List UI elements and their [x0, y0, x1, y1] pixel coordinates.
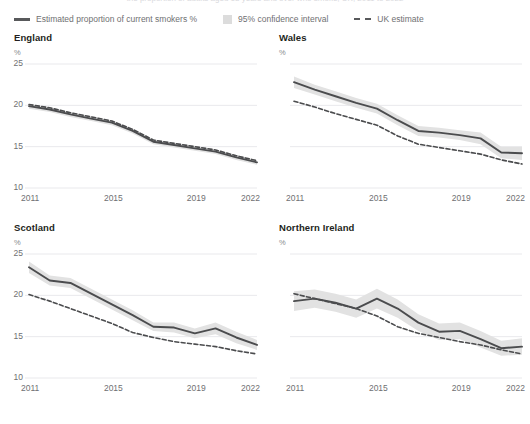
x-axis-tick-scotland-2022: 2022: [241, 383, 260, 393]
x-axis-tick-northern-ireland-2011: 2011: [286, 383, 304, 393]
x-axis-tick-england-2019: 2019: [187, 193, 206, 203]
plot-area-england: 101520252011201520192022: [0, 28, 265, 218]
chart-legend: Estimated proportion of current smokers …: [14, 14, 424, 24]
legend-item-estimate: Estimated proportion of current smokers …: [14, 14, 197, 24]
legend-label-uk-estimate: UK estimate: [377, 14, 423, 24]
y-axis-tick-england-25: 25: [7, 58, 23, 68]
y-axis-tick-scotland-15: 15: [7, 331, 23, 341]
y-axis-tick-england-15: 15: [7, 141, 23, 151]
y-axis-tick-england-20: 20: [7, 99, 23, 109]
legend-label-confidence-interval: 95% confidence interval: [238, 14, 328, 24]
legend-item-uk-estimate: UK estimate: [354, 14, 423, 24]
legend-item-confidence-interval: 95% confidence interval: [223, 14, 328, 24]
x-axis-tick-scotland-2011: 2011: [21, 383, 39, 393]
small-multiples-grid: England % 101520252011201520192022 Wales…: [0, 28, 530, 424]
plot-area-scotland: 101520252011201520192022: [0, 218, 265, 424]
legend-label-estimate: Estimated proportion of current smokers …: [36, 14, 197, 24]
solid-line-swatch-icon: [14, 18, 30, 21]
x-axis-tick-wales-2015: 2015: [369, 193, 388, 203]
x-axis-tick-england-2022: 2022: [241, 193, 260, 203]
plot-area-northern-ireland: 2011201520192022: [265, 218, 530, 424]
x-axis-tick-england-2015: 2015: [104, 193, 123, 203]
band-swatch-icon: [223, 15, 232, 24]
x-axis-tick-england-2011: 2011: [21, 193, 39, 203]
x-axis-tick-northern-ireland-2022: 2022: [506, 383, 525, 393]
y-axis-tick-scotland-25: 25: [7, 248, 23, 258]
x-axis-tick-wales-2022: 2022: [506, 193, 525, 203]
dashed-line-swatch-icon: [354, 18, 371, 20]
plot-area-wales: 2011201520192022: [265, 28, 530, 218]
y-axis-tick-scotland-20: 20: [7, 289, 23, 299]
chart-panel-northern-ireland: Northern Ireland % 2011201520192022: [265, 218, 530, 424]
x-axis-tick-northern-ireland-2019: 2019: [452, 383, 471, 393]
x-axis-tick-scotland-2015: 2015: [104, 383, 123, 393]
chart-panel-wales: Wales % 2011201520192022: [265, 28, 530, 218]
chart-panel-scotland: Scotland % 101520252011201520192022: [0, 218, 265, 424]
x-axis-tick-wales-2011: 2011: [286, 193, 304, 203]
x-axis-tick-wales-2019: 2019: [452, 193, 471, 203]
x-axis-tick-northern-ireland-2015: 2015: [369, 383, 388, 393]
clipped-figure-header: the proportion of adults aged 18 years a…: [0, 0, 530, 3]
y-axis-tick-scotland-10: 10: [7, 372, 23, 382]
chart-panel-england: England % 101520252011201520192022: [0, 28, 265, 218]
y-axis-tick-england-10: 10: [7, 182, 23, 192]
x-axis-tick-scotland-2019: 2019: [187, 383, 206, 393]
